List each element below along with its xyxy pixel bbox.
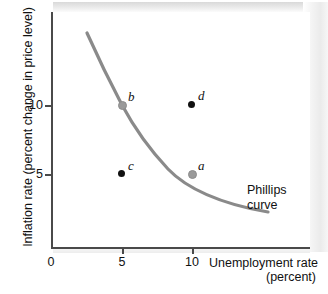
data-point-d [188,101,195,108]
annotation-line2: curve [247,198,287,213]
data-point-label-c: c [128,158,134,174]
data-point-label-a: a [198,158,205,174]
data-point-c [118,170,125,177]
annotation-line1: Phillips [247,183,287,197]
data-point-b [118,101,127,110]
phillips-curve-line [0,0,328,294]
data-point-label-d: d [198,88,205,104]
phillips-curve-annotation: Phillips curve [247,183,287,213]
data-point-a [188,170,197,179]
phillips-curve-figure: 10 5 0 5 10 Inflation rate (percent chan… [0,0,328,294]
data-point-label-b: b [128,89,135,105]
